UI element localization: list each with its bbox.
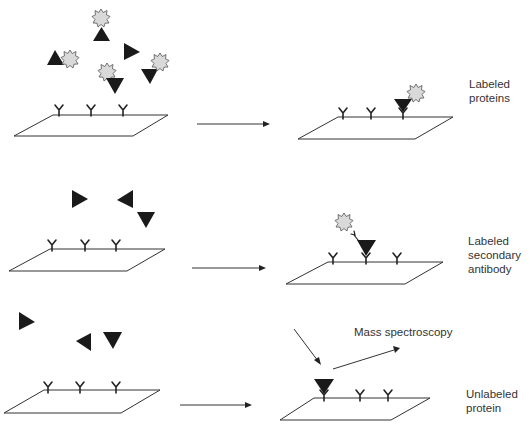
caption-line: protein — [466, 401, 518, 415]
array-slide — [286, 262, 443, 284]
protein-free — [117, 190, 133, 208]
caption-line: antibody — [468, 262, 521, 276]
row-2-caption: Labeled secondary antibody — [468, 234, 521, 276]
row-2-arrow — [192, 265, 266, 271]
labeled-protein-2 — [47, 50, 79, 68]
caption-line: Unlabeled — [466, 387, 518, 401]
diagram-canvas — [0, 0, 530, 437]
mass-spec-out-arrow — [333, 346, 400, 369]
protein-free — [103, 332, 122, 349]
row-1-right-panel — [298, 84, 453, 139]
array-slide — [280, 398, 430, 420]
caption-line: Mass spectroscopy — [354, 325, 452, 339]
capture-antibody — [55, 105, 63, 116]
array-slide — [14, 115, 168, 136]
capture-antibody — [119, 105, 127, 116]
caption-line: proteins — [469, 91, 510, 105]
row-1-caption: Labeled proteins — [469, 77, 510, 105]
labeled-protein-4 — [141, 53, 169, 84]
row-3-left-panel — [4, 312, 160, 413]
array-slide — [298, 117, 453, 139]
row-2-left-panel — [9, 190, 165, 271]
capture-antibody — [87, 105, 95, 116]
array-slide — [4, 390, 160, 413]
labeled-protein-3 — [98, 63, 124, 94]
protein-free — [137, 212, 155, 228]
caption-line: Labeled — [469, 77, 510, 91]
row-1-arrow — [197, 121, 270, 127]
row-2-right-panel — [286, 213, 443, 284]
protein-free — [76, 333, 91, 351]
protein-unlabeled-free — [124, 43, 140, 60]
labeled-protein-1 — [92, 9, 110, 41]
protein-free — [19, 312, 35, 330]
array-slide — [9, 249, 165, 271]
row-3-arrow — [180, 402, 252, 408]
bound-protein — [357, 240, 376, 256]
row-1-left-panel — [14, 9, 169, 136]
protein-free — [72, 190, 88, 208]
mass-spectroscopy-label: Mass spectroscopy — [354, 325, 452, 339]
bound-protein — [314, 379, 334, 394]
labeled-secondary-antibody — [335, 213, 358, 240]
laser-in-arrow — [294, 329, 321, 365]
caption-line: Labeled — [468, 234, 521, 248]
caption-line: secondary — [468, 248, 521, 262]
row-3-caption: Unlabeled protein — [466, 387, 518, 415]
row-3-right-panel — [280, 329, 430, 420]
